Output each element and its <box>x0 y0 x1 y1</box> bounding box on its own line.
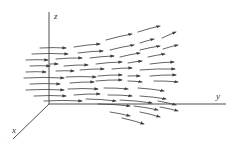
vector-arrow <box>162 32 176 38</box>
vector-arrow <box>110 112 130 116</box>
vector-arrow <box>140 69 175 70</box>
vector-arrow <box>120 53 140 57</box>
vector-arrow <box>70 82 94 83</box>
z-axis-label: z <box>53 11 58 21</box>
vector-arrow <box>108 95 132 96</box>
vector-arrow <box>26 89 64 90</box>
vector-arrow <box>56 58 82 59</box>
x-axis-label: x <box>11 125 16 135</box>
vector-arrow <box>106 34 132 40</box>
y-axis-label: y <box>215 91 220 101</box>
vector-arrow <box>140 39 154 43</box>
vector-arrow <box>150 62 174 64</box>
vector-arrow <box>44 100 82 101</box>
vector-arrow <box>96 80 122 81</box>
vector-arrow <box>32 53 68 54</box>
vector-arrow <box>90 56 114 58</box>
vector-arrow <box>96 62 122 64</box>
vector-arrow <box>140 46 160 50</box>
vector-arrows-group <box>24 26 178 124</box>
vector-arrow <box>112 68 132 69</box>
vector-arrow <box>138 88 164 91</box>
vector-arrow <box>160 107 178 111</box>
vector-arrow <box>24 77 64 78</box>
vector-field-figure: z y x <box>0 0 236 148</box>
vector-arrow <box>134 106 158 110</box>
vector-arrow <box>128 81 142 82</box>
vector-arrow <box>78 51 103 53</box>
vector-arrow <box>122 118 144 124</box>
vector-arrow <box>98 75 122 76</box>
vector-arrow <box>140 112 160 117</box>
vector-arrow <box>86 99 116 101</box>
vector-arrow <box>110 45 134 50</box>
vector-arrow <box>138 26 160 32</box>
vector-arrow <box>140 96 166 99</box>
vector-arrow <box>128 61 142 63</box>
vector-arrow <box>74 44 100 47</box>
vector-arrow <box>150 75 176 76</box>
vector-arrow <box>154 81 178 82</box>
vector-arrow <box>120 100 152 103</box>
x-axis <box>13 104 49 139</box>
vector-arrow <box>163 45 178 49</box>
vector-arrow <box>104 88 128 89</box>
vector-arrow <box>148 54 165 57</box>
vector-arrow <box>74 94 100 95</box>
vector-arrow <box>80 69 104 70</box>
vector-arrow <box>64 65 88 66</box>
